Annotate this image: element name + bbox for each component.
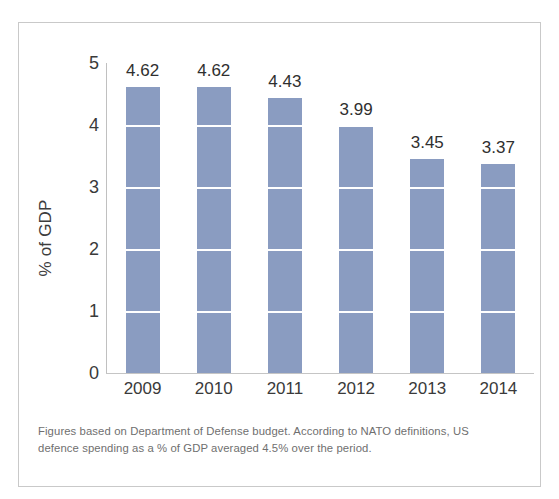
y-axis-tick: 5: [61, 53, 99, 74]
x-axis-tick: 2013: [392, 379, 463, 399]
x-axis-tick: 2011: [249, 379, 320, 399]
bar[interactable]: [481, 164, 515, 373]
chart-figure: % of GDP 543210 4.624.624.433.993.453.37…: [18, 22, 541, 487]
y-axis-tick: 1: [61, 301, 99, 322]
chart-caption: Figures based on Department of Defense b…: [38, 423, 512, 457]
bar-slot: [249, 55, 320, 373]
bar-slot: [178, 55, 249, 373]
x-axis-tick: 2014: [463, 379, 534, 399]
bar[interactable]: [126, 87, 160, 373]
y-axis-tick-labels: 543210: [61, 23, 99, 405]
x-axis-tick: 2012: [321, 379, 392, 399]
y-axis-tick: 0: [61, 363, 99, 384]
gridline: [107, 187, 534, 189]
bar-value-label: 3.99: [340, 100, 373, 120]
x-axis-tick: 2010: [178, 379, 249, 399]
bar-slot: [107, 55, 178, 373]
x-axis-tick: 2009: [107, 379, 178, 399]
bar-value-label: 4.43: [268, 72, 301, 92]
bar[interactable]: [268, 98, 302, 373]
bar-slot: [463, 55, 534, 373]
bar-value-label: 3.45: [411, 133, 444, 153]
gridline: [107, 311, 534, 313]
bar-chart: % of GDP 543210 4.624.624.433.993.453.37…: [19, 23, 542, 405]
bar-value-label: 4.62: [197, 61, 230, 81]
bar[interactable]: [197, 87, 231, 373]
y-axis-tick: 2: [61, 239, 99, 260]
y-axis-tick: 3: [61, 177, 99, 198]
plot-area: 4.624.624.433.993.453.37: [107, 23, 534, 405]
bar-value-label: 3.37: [482, 138, 515, 158]
bar[interactable]: [410, 159, 444, 373]
y-axis-tick: 4: [61, 115, 99, 136]
bar-slot: [392, 55, 463, 373]
gridline: [107, 249, 534, 251]
bar-value-label: 4.62: [126, 61, 159, 81]
y-axis-title: % of GDP: [36, 178, 56, 298]
gridline: [107, 125, 534, 127]
